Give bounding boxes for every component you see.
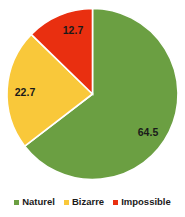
- pie-slice-value-impossible: 12.7: [63, 24, 84, 36]
- legend-swatch-icon: [64, 200, 69, 205]
- legend-swatch-icon: [14, 200, 19, 205]
- pie-svg: 64.522.712.7: [0, 0, 185, 188]
- legend-item-naturel[interactable]: Naturel: [14, 197, 55, 207]
- pie-slice-value-bizarre: 22.7: [15, 86, 36, 98]
- pie-chart-figure: 64.522.712.7 NaturelBizarreImpossible: [0, 0, 185, 217]
- legend-item-impossible[interactable]: Impossible: [113, 197, 171, 207]
- pie-plot-area: 64.522.712.7: [0, 0, 185, 188]
- legend-item-label: Bizarre: [72, 197, 104, 207]
- legend-swatch-icon: [113, 200, 118, 205]
- legend-item-bizarre[interactable]: Bizarre: [64, 197, 104, 207]
- pie-slice-value-naturel: 64.5: [138, 126, 159, 138]
- legend-item-label: Naturel: [22, 197, 55, 207]
- legend-item-label: Impossible: [121, 197, 171, 207]
- chart-legend: NaturelBizarreImpossible: [0, 192, 185, 212]
